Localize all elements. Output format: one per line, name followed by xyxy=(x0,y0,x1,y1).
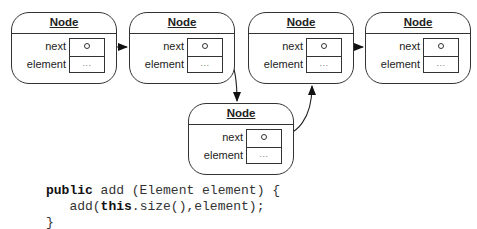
divider xyxy=(130,33,234,34)
pointer-circle-icon xyxy=(438,43,444,49)
divider xyxy=(189,124,293,125)
element-label: element xyxy=(381,58,420,70)
next-label: next xyxy=(282,40,303,52)
element-value: ... xyxy=(70,58,104,68)
element-label: element xyxy=(27,58,66,70)
cell-divider xyxy=(247,147,281,148)
pointer-circle-icon xyxy=(84,43,90,49)
cell-divider xyxy=(188,56,222,57)
next-label: next xyxy=(222,131,243,143)
next-label: next xyxy=(163,40,184,52)
divider xyxy=(12,33,116,34)
code-line-1: public add (Element element) { xyxy=(46,183,280,199)
node-box-2: Node next element ... xyxy=(129,12,235,84)
element-value: ... xyxy=(307,58,341,68)
node-box-3: Node next element ... xyxy=(248,12,354,84)
keyword-public: public xyxy=(46,183,93,198)
field-cells: ... xyxy=(69,38,105,73)
cell-divider xyxy=(70,56,104,57)
code-line-3: } xyxy=(46,215,280,229)
element-value: ... xyxy=(188,58,222,68)
code-text: add (Element element) { xyxy=(93,183,280,198)
node-title: Node xyxy=(249,16,353,28)
pointer-circle-icon xyxy=(261,134,267,140)
next-label: next xyxy=(399,40,420,52)
cell-divider xyxy=(307,56,341,57)
node-box-5: Node next element ... xyxy=(188,103,294,175)
field-cells: ... xyxy=(423,38,459,73)
element-label: element xyxy=(264,58,303,70)
element-value: ... xyxy=(424,58,458,68)
element-label: element xyxy=(204,149,243,161)
node-box-4: Node next element ... xyxy=(365,12,471,84)
divider xyxy=(366,33,470,34)
next-label: next xyxy=(45,40,66,52)
field-cells: ... xyxy=(306,38,342,73)
code-line-2: add(this.size(),element); xyxy=(46,199,280,215)
code-block: public add (Element element) { add(this.… xyxy=(46,183,280,229)
cell-divider xyxy=(424,56,458,57)
node-title: Node xyxy=(366,16,470,28)
code-text: add( xyxy=(46,199,101,214)
element-label: element xyxy=(145,58,184,70)
keyword-this: this xyxy=(101,199,132,214)
pointer-circle-icon xyxy=(202,43,208,49)
node-box-1: Node next element ... xyxy=(11,12,117,84)
code-text: .size(),element); xyxy=(132,199,265,214)
pointer-circle-icon xyxy=(321,43,327,49)
node-title: Node xyxy=(189,107,293,119)
element-value: ... xyxy=(247,149,281,159)
field-cells: ... xyxy=(246,129,282,164)
field-cells: ... xyxy=(187,38,223,73)
divider xyxy=(249,33,353,34)
node-title: Node xyxy=(130,16,234,28)
node-title: Node xyxy=(12,16,116,28)
